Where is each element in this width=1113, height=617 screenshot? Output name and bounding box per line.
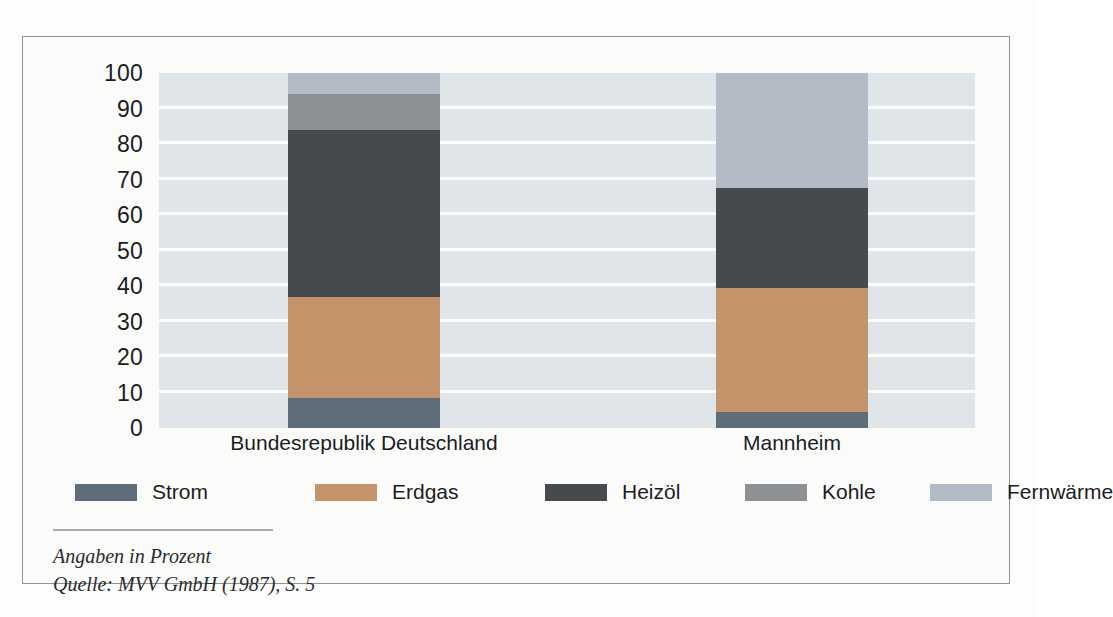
legend-item: Erdgas	[315, 477, 459, 507]
bar-segment	[716, 288, 868, 412]
chart-legend: StromErdgasHeizölKohleFernwärme	[45, 477, 989, 511]
caption-block: Angaben in Prozent Quelle: MVV GmbH (198…	[53, 542, 753, 599]
caption-line-source: Quelle: MVV GmbH (1987), S. 5	[53, 570, 753, 598]
category-label: Bundesrepublik Deutschland	[230, 431, 497, 455]
legend-label: Kohle	[822, 480, 876, 504]
y-axis-tick-label: 100	[43, 62, 143, 85]
legend-swatch-icon	[75, 484, 137, 501]
legend-swatch-icon	[930, 484, 992, 501]
category-label: Mannheim	[743, 431, 841, 455]
bar-segment	[288, 130, 440, 297]
bar-segment	[288, 94, 440, 130]
y-axis-tick-label: 40	[43, 275, 143, 298]
y-axis-tick-label: 90	[43, 97, 143, 120]
plot-area	[159, 73, 975, 428]
y-axis-tick-label: 80	[43, 133, 143, 156]
legend-item: Strom	[75, 477, 208, 507]
legend-swatch-icon	[315, 484, 377, 501]
legend-item: Kohle	[745, 477, 876, 507]
caption-line-units: Angaben in Prozent	[53, 542, 753, 570]
y-axis: 1009080706050403020100	[43, 53, 151, 425]
legend-item: Fernwärme	[930, 477, 1113, 507]
bar-segment	[716, 412, 868, 428]
legend-label: Heizöl	[622, 480, 680, 504]
stacked-bar	[716, 73, 868, 428]
figure-frame: 1009080706050403020100 Bundesrepublik De…	[22, 36, 1010, 584]
bar-segment	[716, 188, 868, 287]
y-axis-tick-label: 50	[43, 239, 143, 262]
bar-segment	[716, 73, 868, 188]
bar-segment	[288, 73, 440, 94]
y-axis-tick-label: 70	[43, 168, 143, 191]
y-axis-tick-label: 60	[43, 204, 143, 227]
stacked-bar	[288, 73, 440, 428]
legend-label: Fernwärme	[1007, 480, 1113, 504]
bar-segment	[288, 297, 440, 398]
y-axis-tick-label: 30	[43, 310, 143, 333]
y-axis-tick-label: 0	[43, 417, 143, 440]
plot-region: 1009080706050403020100 Bundesrepublik De…	[43, 53, 991, 453]
y-axis-tick-label: 10	[43, 381, 143, 404]
legend-swatch-icon	[545, 484, 607, 501]
legend-swatch-icon	[745, 484, 807, 501]
bar-segment	[288, 398, 440, 428]
legend-label: Erdgas	[392, 480, 459, 504]
legend-item: Heizöl	[545, 477, 680, 507]
legend-label: Strom	[152, 480, 208, 504]
y-axis-tick-label: 20	[43, 346, 143, 369]
caption-divider	[53, 529, 273, 531]
category-axis-labels: Bundesrepublik DeutschlandMannheim	[159, 431, 975, 461]
